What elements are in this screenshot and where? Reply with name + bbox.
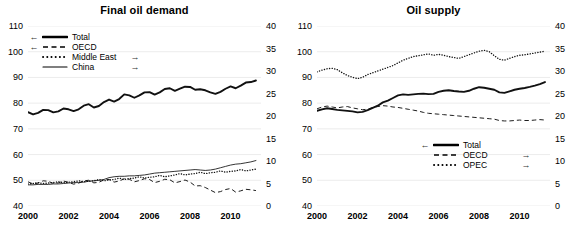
legend-label: OECD — [463, 150, 517, 160]
arrow-left-icon: ← — [417, 140, 433, 150]
legend-item[interactable]: OPEC→ — [417, 160, 535, 170]
y-right-demand-tick: 30 — [266, 67, 276, 76]
y-left-supply-tick: 50 — [302, 176, 312, 185]
arrow-right-icon: → — [126, 52, 144, 62]
plot-canvas-supply — [317, 26, 550, 206]
y-right-supply-tick: 40 — [555, 22, 565, 31]
y-left-supply-tick: 70 — [302, 124, 312, 133]
arrow-right-icon: → — [126, 62, 144, 72]
y-right-supply-tick: 5 — [555, 179, 560, 188]
chart-title-demand: Final oil demand — [0, 4, 289, 16]
y-right-supply-tick: 25 — [555, 89, 565, 98]
y-right-demand-tick: 40 — [266, 22, 276, 31]
y-axis-right-demand: 0510152025303540 — [263, 26, 289, 206]
legend-item[interactable]: ←OECD — [26, 42, 144, 52]
x-supply-tick: 2006 — [429, 212, 449, 221]
legend-line-swatch — [42, 32, 68, 42]
arrow-right-icon: → — [517, 150, 535, 160]
y-left-supply-tick: 40 — [302, 202, 312, 211]
y-right-demand-tick: 25 — [266, 89, 276, 98]
legend-line-swatch — [433, 140, 459, 150]
legend-item[interactable]: Middle East→ — [26, 52, 144, 62]
arrow-left-icon: ← — [26, 42, 42, 52]
y-left-demand-tick: 70 — [13, 124, 23, 133]
legend-item[interactable]: China→ — [26, 62, 144, 72]
y-right-supply-tick: 0 — [555, 202, 560, 211]
y-axis-right-supply: 0510152025303540 — [552, 26, 578, 206]
y-right-demand-tick: 10 — [266, 157, 276, 166]
x-axis-demand: 200020022004200620082010 — [28, 212, 261, 224]
y-left-demand-tick: 80 — [13, 99, 23, 108]
y-left-demand-tick: 90 — [13, 73, 23, 82]
y-axis-left-demand: 405060708090100110 — [0, 26, 26, 206]
y-right-demand-tick: 5 — [266, 179, 271, 188]
series-svg-supply — [317, 26, 550, 206]
y-left-demand-tick: 110 — [9, 22, 23, 31]
y-right-supply-tick: 10 — [555, 157, 565, 166]
legend-label: OPEC — [463, 160, 517, 170]
y-left-supply-tick: 110 — [298, 22, 312, 31]
x-demand-tick: 2002 — [59, 212, 79, 221]
legend-line-swatch — [42, 42, 68, 52]
legend-supply: ←TotalOECD→OPEC→ — [417, 140, 535, 170]
arrow-left-icon: ← — [26, 32, 42, 42]
chart-panel-demand: Final oil demand 405060708090100110 0510… — [0, 0, 289, 232]
x-supply-tick: 2010 — [510, 212, 530, 221]
x-supply-tick: 2008 — [469, 212, 489, 221]
y-right-supply-tick: 30 — [555, 67, 565, 76]
legend-label: OECD — [72, 42, 126, 52]
x-axis-supply: 200020022004200620082010 — [317, 212, 550, 224]
y-right-supply-tick: 35 — [555, 44, 565, 53]
legend-label: China — [72, 62, 126, 72]
legend-line-swatch — [42, 52, 68, 62]
series-line — [317, 50, 545, 78]
y-right-supply-tick: 20 — [555, 112, 565, 121]
x-supply-tick: 2004 — [388, 212, 408, 221]
legend-item[interactable]: OECD→ — [417, 150, 535, 160]
y-right-demand-tick: 0 — [266, 202, 271, 211]
chart-panel-supply: Oil supply 405060708090100110 0510152025… — [289, 0, 578, 232]
y-axis-left-supply: 405060708090100110 — [289, 26, 315, 206]
legend-demand: ←Total←OECDMiddle East→China→ — [26, 32, 144, 72]
series-line — [28, 179, 256, 193]
y-right-demand-tick: 15 — [266, 134, 276, 143]
legend-line-swatch — [433, 160, 459, 170]
y-left-demand-tick: 40 — [13, 202, 23, 211]
legend-item[interactable]: ←Total — [417, 140, 535, 150]
y-left-supply-tick: 60 — [302, 150, 312, 159]
y-left-supply-tick: 80 — [302, 99, 312, 108]
y-left-supply-tick: 90 — [302, 73, 312, 82]
y-right-supply-tick: 15 — [555, 134, 565, 143]
y-left-supply-tick: 100 — [297, 47, 312, 56]
x-demand-tick: 2008 — [180, 212, 200, 221]
plot-area-supply — [317, 26, 550, 206]
arrow-right-icon: → — [517, 160, 535, 170]
x-demand-tick: 2004 — [99, 212, 119, 221]
x-demand-tick: 2000 — [18, 212, 38, 221]
figure-root: Final oil demand 405060708090100110 0510… — [0, 0, 578, 232]
series-line — [317, 82, 545, 112]
y-left-demand-tick: 100 — [8, 47, 23, 56]
legend-label: Total — [72, 32, 126, 42]
chart-title-supply: Oil supply — [289, 4, 578, 16]
x-supply-tick: 2000 — [307, 212, 327, 221]
y-right-demand-tick: 20 — [266, 112, 276, 121]
series-line — [28, 169, 256, 184]
y-right-demand-tick: 35 — [266, 44, 276, 53]
legend-line-swatch — [433, 150, 459, 160]
x-demand-tick: 2006 — [140, 212, 160, 221]
y-left-demand-tick: 60 — [13, 150, 23, 159]
series-line — [28, 81, 256, 115]
legend-label: Middle East — [72, 52, 126, 62]
legend-line-swatch — [42, 62, 68, 72]
legend-item[interactable]: ←Total — [26, 32, 144, 42]
x-demand-tick: 2010 — [221, 212, 241, 221]
series-line — [317, 106, 545, 121]
series-line — [28, 161, 256, 185]
y-left-demand-tick: 50 — [13, 176, 23, 185]
legend-label: Total — [463, 140, 517, 150]
x-supply-tick: 2002 — [348, 212, 368, 221]
